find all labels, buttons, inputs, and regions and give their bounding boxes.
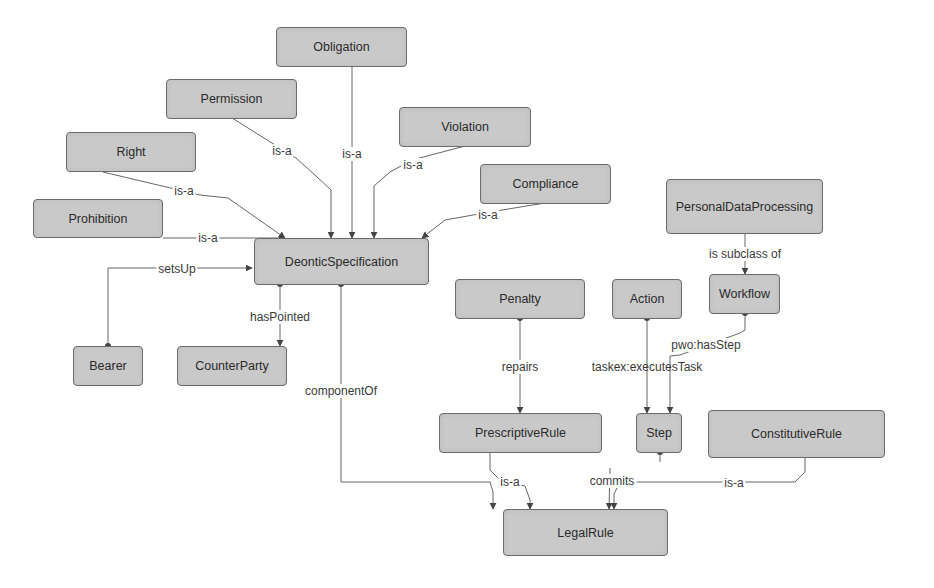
label-sets-up: setsUp [156,262,197,276]
label-commits: commits [588,474,637,488]
label-violation-is-a: is-a [401,158,424,172]
node-permission[interactable]: Permission [166,79,297,119]
label-executes-task: taskex:executesTask [590,360,705,374]
label-prohibition-is-a: is-a [196,231,219,245]
label-repairs: repairs [500,360,541,374]
label-is-subclass-of: is subclass of [707,247,783,261]
edge-bearer-deontic [108,268,252,346]
label-obligation-is-a: is-a [340,147,363,161]
node-compliance[interactable]: Compliance [480,164,611,204]
node-workflow[interactable]: Workflow [709,274,780,314]
node-label: Bearer [89,359,127,373]
node-right[interactable]: Right [66,132,196,172]
node-action[interactable]: Action [612,279,682,319]
label-has-step: pwo:hasStep [669,338,742,352]
node-legal-rule[interactable]: LegalRule [503,509,668,556]
node-label: PrescriptiveRule [475,426,566,440]
node-label: Penalty [499,292,541,306]
node-violation[interactable]: Violation [399,107,531,147]
node-constitutive-rule[interactable]: ConstitutiveRule [708,410,885,458]
label-constitutive-is-a: is-a [722,476,745,490]
node-label: Workflow [719,287,770,301]
node-label: Permission [201,92,263,106]
node-label: CounterParty [195,359,269,373]
node-step[interactable]: Step [636,413,682,453]
node-prescriptive-rule[interactable]: PrescriptiveRule [439,413,602,453]
node-penalty[interactable]: Penalty [455,279,585,319]
label-permission-is-a: is-a [270,144,293,158]
node-label: Violation [441,120,489,134]
edge-permission-deontic [232,118,331,238]
label-prescriptive-is-a: is-a [498,475,521,489]
node-prohibition[interactable]: Prohibition [33,199,163,238]
label-compliance-is-a: is-a [476,208,499,222]
node-label: Step [646,426,672,440]
label-right-is-a: is-a [172,184,195,198]
label-component-of: componentOf [303,384,379,398]
node-personal-data-processing[interactable]: PersonalDataProcessing [666,179,823,234]
node-label: Action [630,292,665,306]
node-deontic-specification[interactable]: DeonticSpecification [254,238,429,285]
node-label: Right [116,145,145,159]
node-bearer[interactable]: Bearer [73,346,143,386]
node-counter-party[interactable]: CounterParty [177,346,287,386]
ontology-diagram: Obligation Permission Right Violation Co… [0,0,934,588]
node-label: ConstitutiveRule [751,427,842,441]
node-label: DeonticSpecification [285,255,398,269]
node-label: Obligation [313,40,369,54]
node-label: Prohibition [68,212,127,226]
node-label: PersonalDataProcessing [676,200,814,214]
node-label: Compliance [512,177,578,191]
node-label: LegalRule [557,526,613,540]
label-has-pointed: hasPointed [248,310,312,324]
edge-constitutive-legalrule [614,457,805,509]
node-obligation[interactable]: Obligation [276,27,407,67]
